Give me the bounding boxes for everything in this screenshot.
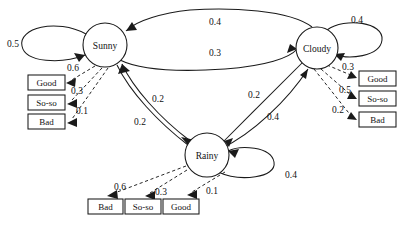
state-label-rainy: Rainy xyxy=(196,151,219,161)
emission-weight-cloudy-soso: 0.5 xyxy=(339,85,351,95)
emission-rainy-bad: 0.6 xyxy=(107,166,186,199)
edge-weight-rainy-rainy: 0.4 xyxy=(285,170,297,180)
observation-label: So-so xyxy=(133,202,154,212)
arrowhead xyxy=(126,22,137,31)
edge-weight-sunny-sunny: 0.5 xyxy=(7,39,19,49)
arrowhead xyxy=(187,190,197,199)
edge-path xyxy=(222,69,308,148)
observation-label: Good xyxy=(171,202,191,212)
edge-cloudy-rainy: 0.2 xyxy=(224,62,303,147)
emission-rainy-soso: 0.3 xyxy=(145,170,187,200)
emission-weight-cloudy-bad: 0.2 xyxy=(332,105,344,115)
arrowhead xyxy=(118,64,130,74)
emission-weight-rainy-bad: 0.6 xyxy=(114,182,126,192)
observation-box-rainy-bad[interactable]: Bad xyxy=(88,199,123,214)
observation-label: Bad xyxy=(39,117,54,127)
observation-label: So-so xyxy=(367,94,388,104)
arrowhead xyxy=(347,71,357,79)
edge-weight-sunny-cloudy: 0.3 xyxy=(209,48,221,58)
observation-box-cloudy-soso[interactable]: So-so xyxy=(359,91,396,106)
edge-sunny-cloudy: 0.3 xyxy=(120,44,297,70)
state-diagram-svg: 0.5 0.4 0.3 0.4 0.2 xyxy=(0,0,402,232)
arrowhead xyxy=(300,69,308,79)
observation-label: Good xyxy=(37,78,57,88)
observation-box-sunny-bad[interactable]: Bad xyxy=(28,114,65,129)
arrowhead xyxy=(67,118,77,127)
edge-path xyxy=(117,65,188,145)
state-node-sunny[interactable]: Sunny xyxy=(83,23,127,67)
emission-weight-rainy-good: 0.1 xyxy=(206,186,218,196)
observation-box-sunny-soso[interactable]: So-so xyxy=(28,95,65,110)
observation-box-cloudy-good[interactable]: Good xyxy=(359,71,396,86)
observation-box-sunny-good[interactable]: Good xyxy=(28,75,65,90)
emission-weight-rainy-soso: 0.3 xyxy=(155,187,167,197)
observation-label: Good xyxy=(368,74,388,84)
emission-sunny-good: 0.6 xyxy=(66,63,95,87)
observation-box-rainy-soso[interactable]: So-so xyxy=(125,199,161,214)
observation-box-cloudy-bad[interactable]: Bad xyxy=(359,112,396,127)
edge-weight-cloudy-cloudy: 0.4 xyxy=(351,15,363,25)
edge-path xyxy=(224,62,303,141)
edge-cloudy-sunny: 0.4 xyxy=(126,9,312,31)
observation-label: Bad xyxy=(370,115,385,125)
diagram-canvas: 0.5 0.4 0.3 0.4 0.2 xyxy=(0,0,402,232)
edge-rainy-cloudy: 0.4 xyxy=(222,69,308,148)
arrowhead xyxy=(347,112,357,120)
observation-label: Bad xyxy=(98,202,113,212)
observation-label: So-so xyxy=(36,98,57,108)
emission-weight-sunny-soso: 0.3 xyxy=(71,86,83,96)
state-label-sunny: Sunny xyxy=(93,41,118,51)
edge-weight-cloudy-rainy: 0.2 xyxy=(248,90,260,100)
state-node-cloudy[interactable]: Cloudy xyxy=(296,27,338,69)
edge-sunny-sunny: 0.5 xyxy=(7,26,86,62)
edge-weight-cloudy-sunny: 0.4 xyxy=(209,17,221,27)
emission-sunny-bad: 0.1 xyxy=(67,68,108,127)
edge-rainy-rainy: 0.4 xyxy=(218,148,297,180)
state-label-cloudy: Cloudy xyxy=(303,44,331,54)
emission-weight-sunny-good: 0.6 xyxy=(67,63,79,73)
emission-cloudy-good: 0.3 xyxy=(327,62,357,79)
edge-weight-sunny-rainy: 0.2 xyxy=(152,94,164,104)
edge-weight-rainy-sunny: 0.2 xyxy=(134,117,146,127)
state-node-rainy[interactable]: Rainy xyxy=(185,133,229,177)
emission-weight-sunny-bad: 0.1 xyxy=(76,106,88,116)
observation-box-rainy-good[interactable]: Good xyxy=(163,199,199,214)
emission-weight-cloudy-good: 0.3 xyxy=(342,62,354,72)
edge-weight-rainy-cloudy: 0.4 xyxy=(267,112,279,122)
